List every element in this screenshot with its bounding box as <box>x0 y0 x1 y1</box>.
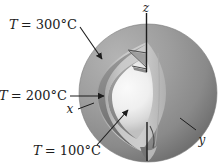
y-axis-label: y <box>198 133 206 147</box>
x-axis-label: x <box>67 102 74 116</box>
isotherm-200-label: T= 200°C <box>0 88 67 103</box>
z-axis-label: z <box>142 1 150 15</box>
isotherm-sphere-figure: T= 300°C T= 200°C T= 100°C z x y <box>0 0 219 168</box>
figure-canvas: T= 300°C T= 200°C T= 100°C z x y <box>0 0 219 168</box>
